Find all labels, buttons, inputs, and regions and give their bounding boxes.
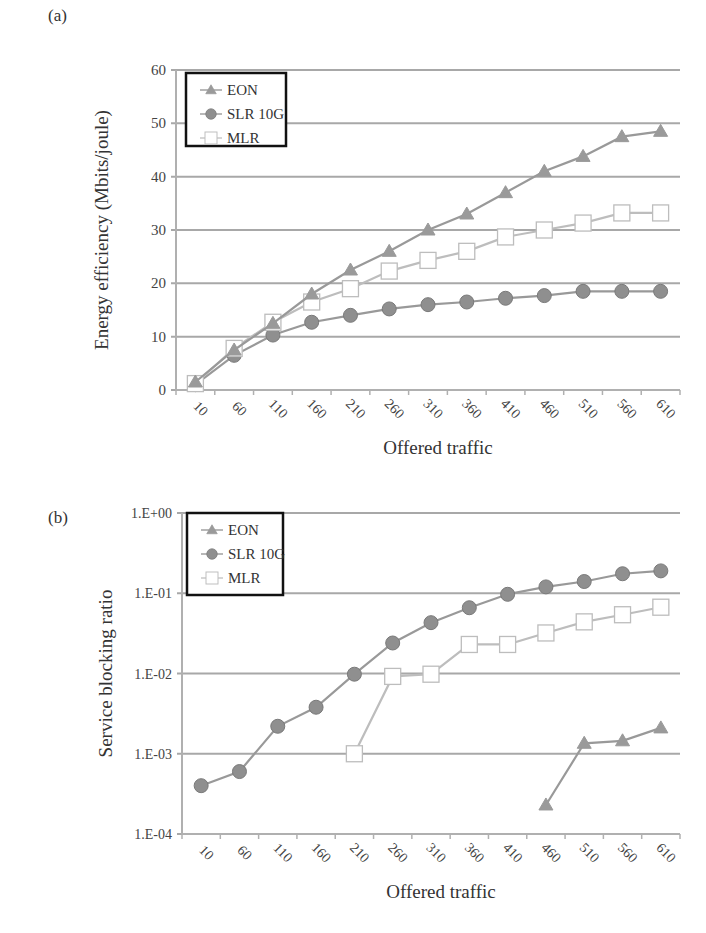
circle-marker-icon	[501, 587, 515, 601]
y-tick-label: 1.E+00	[131, 506, 172, 521]
circle-marker-icon	[462, 601, 476, 615]
x-axis-title: Offered traffic	[386, 881, 496, 902]
circle-marker-icon	[386, 636, 400, 650]
x-tick-label: 360	[462, 840, 487, 865]
circle-marker-icon	[577, 575, 591, 589]
circle-marker-icon	[424, 616, 438, 630]
circle-marker-icon	[539, 580, 553, 594]
y-tick-label: 1.E-01	[134, 586, 172, 601]
legend-entry-label: SLR 10G	[228, 546, 285, 562]
x-tick-label: 10	[196, 843, 217, 864]
x-tick-label: 60	[234, 843, 255, 864]
legend-entry-label: MLR	[228, 570, 261, 586]
circle-marker-icon	[347, 667, 361, 681]
x-tick-label: 110	[270, 840, 295, 865]
square-marker-icon	[615, 607, 631, 623]
square-marker-icon	[538, 625, 554, 641]
square-marker-icon	[423, 666, 439, 682]
square-marker-icon	[653, 599, 669, 615]
x-tick-label: 460	[538, 840, 563, 865]
x-tick-label: 510	[577, 840, 602, 865]
x-tick-label: 410	[500, 840, 525, 865]
circle-marker-icon	[207, 549, 218, 560]
legend: EONSLR 10GMLR	[187, 513, 285, 595]
triangle-marker-icon	[654, 721, 668, 733]
legend-entry-label: EON	[228, 522, 259, 538]
y-tick-label: 1.E-04	[134, 827, 172, 842]
circle-marker-icon	[232, 765, 246, 779]
series-eon	[539, 721, 668, 810]
square-marker-icon	[346, 746, 362, 762]
circle-marker-icon	[271, 719, 285, 733]
x-tick-label: 260	[385, 840, 410, 865]
square-marker-icon	[206, 572, 218, 584]
x-tick-label: 210	[347, 840, 372, 865]
x-tick-label: 160	[309, 840, 334, 865]
blocking-ratio-chart: 1.E-041.E-031.E-021.E-011.E+001060110160…	[0, 0, 706, 933]
triangle-marker-icon	[539, 798, 553, 810]
x-tick-label: 560	[615, 840, 640, 865]
y-tick-label: 1.E-03	[134, 747, 172, 762]
circle-marker-icon	[309, 700, 323, 714]
y-axis-title: Service blocking ratio	[95, 590, 116, 758]
y-tick-label: 1.E-02	[134, 667, 172, 682]
circle-marker-icon	[654, 564, 668, 578]
circle-marker-icon	[194, 779, 208, 793]
square-marker-icon	[385, 668, 401, 684]
x-tick-label: 310	[423, 840, 448, 865]
square-marker-icon	[576, 614, 592, 630]
square-marker-icon	[500, 636, 516, 652]
circle-marker-icon	[616, 567, 630, 581]
x-tick-label: 610	[653, 840, 678, 865]
square-marker-icon	[461, 636, 477, 652]
